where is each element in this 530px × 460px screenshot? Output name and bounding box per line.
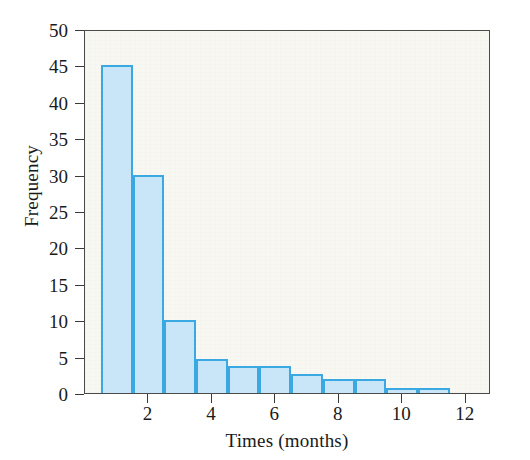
x-axis-tick [465,394,466,403]
histogram-figure: Frequency 05101520253035404550 24681012 … [0,0,530,460]
y-axis-tick [75,394,84,395]
y-axis-tick [75,358,84,359]
y-axis-tick-label: 50 [8,21,68,40]
y-axis-tick-label: 10 [8,312,68,331]
y-axis-tick-label: 40 [8,94,68,113]
y-axis-tick-label: 25 [8,203,68,222]
y-axis-tick [75,321,84,322]
x-axis-tick [211,394,212,403]
y-axis-tick [75,30,84,31]
x-axis-tick-label: 4 [186,404,236,423]
y-axis-tick-label: 5 [8,349,68,368]
x-axis-tick [338,394,339,403]
histogram-bar [259,366,291,393]
plot-area [84,30,490,394]
histogram-bar [355,379,387,393]
y-axis-tick-label: 20 [8,239,68,258]
histogram-bar [164,320,196,393]
y-axis-tick [75,285,84,286]
histogram-bar [196,359,228,393]
histogram-bar [418,388,450,393]
y-axis-tick-label: 30 [8,167,68,186]
histogram-bar [386,388,418,393]
y-axis-tick [75,66,84,67]
y-axis-tick-label: 35 [8,130,68,149]
histogram-bar [228,366,260,393]
x-axis-title: Times (months) [84,430,490,452]
x-axis-tick-label: 10 [376,404,426,423]
y-axis-tick [75,212,84,213]
x-axis-tick-label: 12 [440,404,490,423]
histogram-bar [323,379,355,393]
y-axis-tick-label: 0 [8,385,68,404]
histogram-bar [291,374,323,393]
x-axis-tick [147,394,148,403]
histogram-bar [101,65,133,393]
x-axis-tick-label: 2 [122,404,172,423]
y-axis-tick-label: 45 [8,57,68,76]
y-axis-tick [75,103,84,104]
x-axis-tick [401,394,402,403]
y-axis-tick [75,248,84,249]
x-axis-tick-label: 6 [249,404,299,423]
y-axis-tick [75,139,84,140]
histogram-bar [133,175,165,393]
y-axis-tick-label: 15 [8,276,68,295]
bar-series [85,31,489,393]
x-axis-tick-label: 8 [313,404,363,423]
x-axis-tick [274,394,275,403]
y-axis-tick [75,176,84,177]
